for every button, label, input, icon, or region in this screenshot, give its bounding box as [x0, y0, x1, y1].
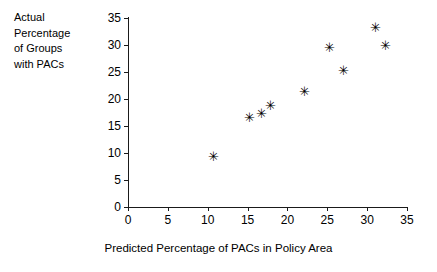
- y-axis-tick: [124, 180, 128, 181]
- data-point-marker: ✳: [324, 41, 336, 53]
- y-axis-tick: [124, 72, 128, 73]
- x-axis-tick: [128, 207, 129, 211]
- x-axis-tick-label: 5: [165, 214, 172, 226]
- x-axis-tick-label: 25: [321, 214, 334, 226]
- x-axis-tick: [407, 207, 408, 211]
- y-axis-label: Actual Percentage of Groups with PACs: [14, 10, 100, 72]
- data-point-marker: ✳: [298, 85, 310, 97]
- x-axis-line: [128, 207, 408, 208]
- x-axis-label: Predicted Percentage of PACs in Policy A…: [0, 241, 437, 255]
- plot-area: 0510152025303505101520253035✳✳✳✳✳✳✳✳✳: [128, 18, 407, 207]
- y-axis-tick-label: 25: [108, 66, 121, 78]
- y-axis-tick: [124, 99, 128, 100]
- y-axis-tick-label: 20: [108, 93, 121, 105]
- x-axis-tick: [168, 207, 169, 211]
- y-axis-tick: [124, 153, 128, 154]
- y-axis-tick: [124, 45, 128, 46]
- x-axis-tick: [367, 207, 368, 211]
- data-point-marker: ✳: [337, 64, 349, 76]
- data-point-marker: ✳: [265, 99, 277, 111]
- x-axis-tick-label: 30: [360, 214, 373, 226]
- y-axis-tick: [124, 126, 128, 127]
- y-axis-label-line-2: Percentage: [14, 26, 100, 42]
- y-axis-label-line-4: with PACs: [14, 57, 100, 73]
- x-axis-tick-label: 15: [241, 214, 254, 226]
- scatter-plot-figure: Actual Percentage of Groups with PACs 05…: [0, 0, 437, 272]
- x-axis-tick-label: 20: [281, 214, 294, 226]
- y-axis-tick-label: 15: [108, 120, 121, 132]
- y-axis-label-line-3: of Groups: [14, 41, 100, 57]
- x-axis-tick-label: 10: [201, 214, 214, 226]
- y-axis-tick-label: 30: [108, 39, 121, 51]
- data-point-marker: ✳: [379, 39, 391, 51]
- data-point-marker: ✳: [369, 21, 381, 33]
- y-axis-tick-label: 5: [114, 174, 121, 186]
- x-axis-tick-label: 35: [400, 214, 413, 226]
- y-axis-label-line-1: Actual: [14, 10, 100, 26]
- y-axis-tick-label: 35: [108, 12, 121, 24]
- x-axis-tick: [248, 207, 249, 211]
- data-point-marker: ✳: [244, 111, 256, 123]
- y-axis-tick: [124, 18, 128, 19]
- x-axis-tick: [287, 207, 288, 211]
- x-axis-tick-label: 0: [125, 214, 132, 226]
- y-axis-tick-label: 0: [114, 201, 121, 213]
- x-axis-tick: [208, 207, 209, 211]
- x-axis-tick: [327, 207, 328, 211]
- data-point-marker: ✳: [207, 150, 219, 162]
- y-axis-tick-label: 10: [108, 147, 121, 159]
